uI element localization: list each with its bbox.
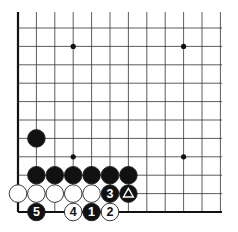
- move-number: 4: [70, 205, 77, 219]
- white-stone: [9, 185, 27, 203]
- move-number: 2: [107, 205, 114, 219]
- star-point: [71, 154, 76, 159]
- black-stone: 3: [101, 185, 119, 203]
- go-board: 35412: [0, 0, 238, 232]
- star-point: [71, 44, 76, 49]
- white-stone: [83, 185, 101, 203]
- black-stone: [120, 185, 138, 203]
- move-number: 3: [107, 187, 114, 201]
- black-stone: [83, 166, 101, 184]
- black-stone: [28, 166, 46, 184]
- star-point: [181, 154, 186, 159]
- white-stone: [28, 185, 46, 203]
- black-stone: [46, 166, 64, 184]
- black-stone: [101, 166, 119, 184]
- move-number: 1: [88, 205, 95, 219]
- white-stone: [46, 185, 64, 203]
- black-stone: 5: [28, 203, 46, 221]
- white-stone: 2: [101, 203, 119, 221]
- black-stone: [120, 166, 138, 184]
- black-stone: [28, 130, 46, 148]
- black-stone: 1: [83, 203, 101, 221]
- star-point: [181, 44, 186, 49]
- white-stone: [64, 185, 82, 203]
- white-stone: 4: [64, 203, 82, 221]
- black-stone: [64, 166, 82, 184]
- move-number: 5: [33, 205, 40, 219]
